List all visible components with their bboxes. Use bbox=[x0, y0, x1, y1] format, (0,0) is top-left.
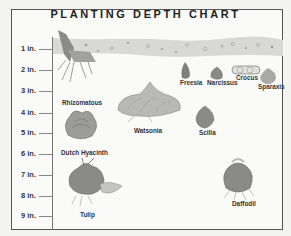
rhizomatous-icon bbox=[58, 30, 96, 82]
scilla-icon bbox=[196, 106, 214, 128]
bulb-label: Scilla bbox=[199, 129, 216, 136]
depth-axis bbox=[52, 37, 53, 230]
bulb-label: Freesia bbox=[180, 79, 202, 86]
depth-tick-label: 7 in. bbox=[21, 170, 36, 179]
bulb-label: Narcissus bbox=[207, 79, 238, 86]
depth-tick: 6 in. bbox=[14, 149, 52, 159]
bulb-label: Dutch Hyacinth bbox=[61, 149, 108, 156]
crocus-icon bbox=[232, 66, 260, 74]
depth-tick: 4 in. bbox=[14, 108, 52, 118]
bulb-label: Tulip bbox=[80, 211, 95, 218]
tick-mark bbox=[39, 49, 52, 50]
tick-mark bbox=[39, 154, 52, 155]
bulb-label: Crocus bbox=[236, 74, 258, 81]
depth-tick-label: 5 in. bbox=[21, 128, 36, 137]
tick-mark bbox=[39, 175, 52, 176]
bulb-label: Daffodil bbox=[232, 200, 256, 207]
depth-tick-label: 6 in. bbox=[21, 149, 36, 158]
depth-tick-label: 4 in. bbox=[21, 108, 36, 117]
freesia-icon bbox=[181, 62, 190, 79]
narcissus-icon bbox=[211, 67, 223, 79]
depth-tick: 2 in. bbox=[14, 65, 52, 75]
tick-mark bbox=[39, 70, 52, 71]
depth-tick-label: 3 in. bbox=[21, 86, 36, 95]
tick-mark bbox=[39, 216, 52, 217]
tick-mark bbox=[39, 91, 52, 92]
tick-mark bbox=[39, 133, 52, 134]
depth-tick-label: 2 in. bbox=[21, 65, 36, 74]
depth-tick: 5 in. bbox=[14, 128, 52, 138]
depth-tick: 8 in. bbox=[14, 191, 52, 201]
depth-tick-label: 8 in. bbox=[21, 191, 36, 200]
tick-mark bbox=[39, 113, 52, 114]
bulb-label: Rhizomatous bbox=[62, 99, 102, 106]
tulip-icon bbox=[69, 158, 122, 206]
watsonia-icon bbox=[118, 82, 180, 122]
depth-tick: 7 in. bbox=[14, 170, 52, 180]
sparaxis-icon bbox=[260, 68, 276, 84]
depth-tick: 1 in. bbox=[14, 44, 52, 54]
daffodil-icon bbox=[224, 159, 254, 200]
tick-mark bbox=[39, 196, 52, 197]
depth-tick-label: 9 in. bbox=[21, 211, 36, 220]
bulb-label: Watsonia bbox=[134, 127, 162, 134]
bulb-label: Sparaxis bbox=[258, 83, 285, 90]
dutch-hyacinth-icon bbox=[65, 111, 96, 139]
depth-tick-label: 1 in. bbox=[21, 44, 36, 53]
depth-tick: 3 in. bbox=[14, 86, 52, 96]
depth-tick: 9 in. bbox=[14, 211, 52, 221]
